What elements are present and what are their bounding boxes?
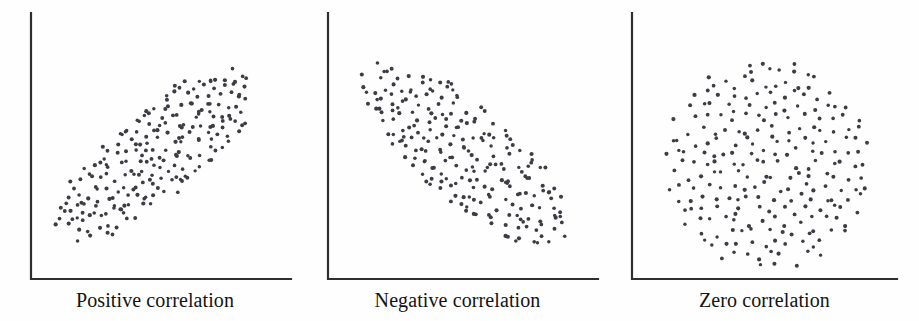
caption-zero-correlation: Zero correlation bbox=[610, 288, 919, 312]
correlation-figure: Positive correlation Negative correlatio… bbox=[0, 0, 919, 321]
scatter-points-positive bbox=[0, 0, 310, 290]
panel-positive-correlation: Positive correlation bbox=[0, 0, 310, 321]
caption-negative-correlation: Negative correlation bbox=[305, 288, 610, 312]
scatter-points-negative bbox=[305, 0, 610, 290]
panel-negative-correlation: Negative correlation bbox=[305, 0, 610, 321]
scatter-points-zero bbox=[610, 0, 919, 290]
caption-positive-correlation: Positive correlation bbox=[0, 288, 310, 312]
panel-zero-correlation: Zero correlation bbox=[610, 0, 919, 321]
